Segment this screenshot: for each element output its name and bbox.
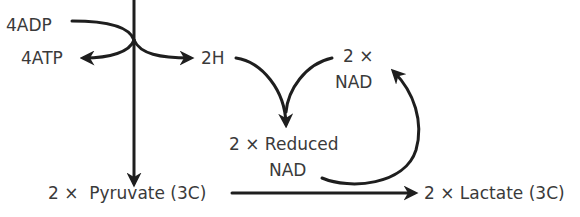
hydrogen-to-reduced-nad-arrow — [236, 58, 286, 124]
adp-input-curve — [72, 21, 134, 40]
hydrogen-output-arrow — [134, 40, 190, 58]
atp-output-arrow — [84, 40, 134, 58]
hydrogen-label: 2H — [201, 48, 225, 68]
nad-label-line2: NAD — [335, 72, 372, 92]
pyruvate-label: 2 × Pyruvate (3C) — [48, 183, 206, 203]
nad-to-reduced-nad-curve — [286, 58, 332, 112]
reduced-nad-label-line2: NAD — [269, 160, 306, 180]
pathway-diagram: 4ADP 4ATP 2H 2 × NAD 2 × Reduced NAD 2 ×… — [0, 0, 580, 217]
reduced-nad-label-line1: 2 × Reduced — [229, 134, 339, 154]
lactate-label: 2 × Lactate (3C) — [424, 183, 565, 203]
nad-label-line1: 2 × — [343, 46, 373, 66]
atp-label: 4ATP — [21, 48, 63, 68]
adp-label: 4ADP — [6, 15, 52, 35]
